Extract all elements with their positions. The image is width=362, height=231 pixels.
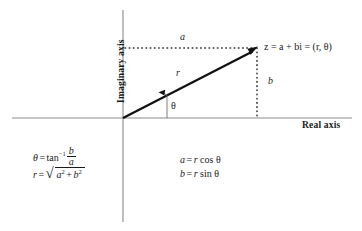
formula-theta-fraction: ba (67, 146, 76, 167)
formula-theta-eq: = (38, 152, 47, 163)
formula-theta: θ=tan−1ba (33, 146, 77, 167)
formula-a-fn: cos (200, 154, 213, 165)
formula-a-r: r (194, 154, 198, 165)
point-z-label: z = a + bi = (r, θ) (264, 42, 332, 52)
vector-r-line (123, 52, 253, 119)
complex-plane-diagram: Imaginary axis Real axis z = a + bi = (r… (0, 0, 362, 231)
vector-r-label: r (176, 68, 180, 78)
formula-b: b=r sin θ (180, 169, 219, 179)
angle-theta-label: θ (171, 101, 176, 111)
formula-r-radical: √a2+b2 (46, 167, 85, 180)
formula-b-eq: = (185, 168, 194, 179)
formula-b-theta: θ (214, 168, 219, 179)
formula-b-fn: sin (200, 168, 212, 179)
theta-arrowhead (159, 90, 166, 96)
formula-r-eq: = (37, 169, 46, 180)
radical-sign: √ (46, 166, 54, 181)
formula-a: a=r cos θ (180, 155, 221, 165)
formula-a-theta: θ (216, 154, 221, 165)
formula-a-eq: = (185, 154, 194, 165)
real-axis-label: Real axis (302, 121, 340, 131)
formula-theta-denominator: a (67, 157, 76, 167)
formula-b-r: r (194, 168, 198, 179)
radical-body: a2+b2 (55, 167, 85, 180)
formula-theta-fn: tan (47, 152, 59, 163)
imaginary-axis-label: Imaginary axis (117, 39, 127, 103)
formula-r-exp2: 2 (78, 168, 81, 175)
segment-a-label: a (180, 32, 185, 42)
segment-b-label: b (268, 76, 273, 86)
formula-theta-exponent: −1 (59, 150, 66, 157)
formula-r: r=√a2+b2 (33, 167, 85, 180)
